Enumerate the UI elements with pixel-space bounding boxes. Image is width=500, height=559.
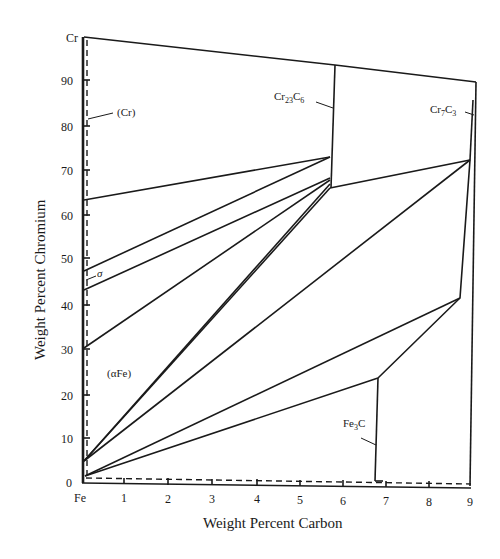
y-label-30: 30: [61, 343, 73, 357]
sigma-label: σ: [97, 267, 103, 279]
y-label-70: 70: [61, 164, 73, 178]
tie-line: [85, 298, 460, 476]
x-label-5: 5: [297, 493, 303, 507]
y-label-50: 50: [61, 252, 73, 266]
tie-line: [85, 378, 378, 476]
x-label-6: 6: [340, 494, 346, 508]
fe3c-label: Fe3C: [343, 417, 365, 432]
cr23c6-line: [331, 65, 335, 188]
x-axis-title: Weight Percent Carbon: [203, 515, 343, 531]
x-label-3: 3: [209, 492, 215, 506]
x-label-8: 8: [426, 495, 432, 509]
cr23c6-cr7c3-tie: [330, 160, 470, 188]
x-label-4: 4: [254, 492, 260, 506]
x-label-1: 1: [121, 491, 127, 505]
x-label-7: 7: [383, 494, 389, 508]
x-label-9: 9: [467, 495, 473, 509]
cr-phase-leader: [88, 113, 113, 119]
y-label-10: 10: [61, 432, 73, 446]
x-axis-line: [82, 483, 471, 488]
phase-diagram: 0 10 20 30 40 50 60 70 80 90 Cr Fe 1 2 3…: [0, 0, 500, 559]
tie-line: [84, 188, 330, 461]
top-boundary: [84, 37, 476, 82]
cr23c6-leader: [316, 102, 333, 108]
cr7c3-label: Cr7C3: [430, 103, 456, 118]
y-label-40: 40: [61, 299, 73, 313]
fe3c-line: [375, 378, 378, 481]
y-label-90: 90: [61, 74, 73, 88]
fe3c-leader: [361, 438, 376, 445]
svg-text:Fe3C: Fe3C: [343, 417, 365, 432]
tie-line: [84, 178, 330, 290]
y-label-0: 0: [66, 476, 72, 490]
cr23c6-label: Cr23C6: [274, 90, 304, 105]
cr-phase-label: (Cr): [117, 106, 136, 119]
y-label-60: 60: [61, 209, 73, 223]
cr7c3-fe3c-boundary: [378, 160, 470, 378]
y-label-80: 80: [61, 120, 73, 134]
tie-line: [84, 157, 330, 200]
sigma-leader: [86, 276, 96, 280]
tie-line: [84, 160, 470, 461]
y-label-cr: Cr: [66, 31, 78, 45]
svg-text:Cr23C6: Cr23C6: [274, 90, 304, 105]
x-label-2: 2: [165, 492, 171, 506]
y-axis-title: Weight Percent Chromium: [32, 199, 48, 360]
alpha-fe-label: (αFe): [107, 367, 131, 380]
x-label-fe: Fe: [74, 491, 86, 505]
y-label-20: 20: [61, 389, 73, 403]
tie-line: [84, 157, 330, 271]
svg-text:Cr7C3: Cr7C3: [430, 103, 456, 118]
cr7c3-line-inner: [470, 100, 473, 160]
